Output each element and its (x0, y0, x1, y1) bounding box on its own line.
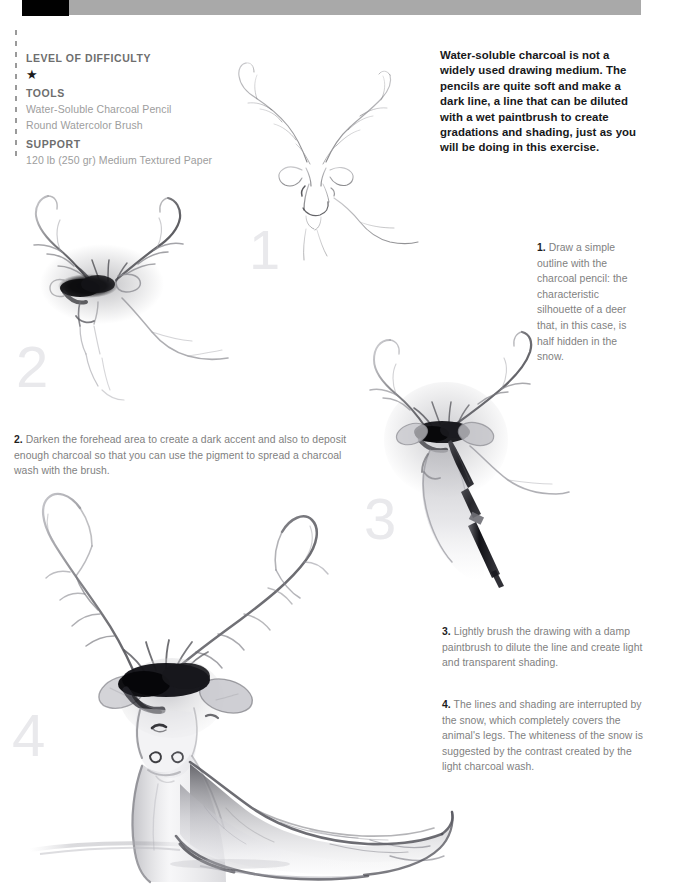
caption-step-2: 2. Darken the forehead area to create a … (14, 432, 359, 479)
dashed-margin-rule (15, 30, 17, 158)
caption-step-3-text: Lightly brush the drawing with a damp pa… (442, 626, 642, 668)
caption-step-3-number: 3. (442, 626, 451, 637)
caption-step-1-text: Draw a simple outline with the charcoal … (537, 242, 628, 362)
caption-step-1-number: 1. (537, 242, 546, 253)
artwork-step-2-darkened-forehead (6, 176, 246, 424)
caption-step-4-number: 4. (442, 699, 451, 710)
header-gray-block (69, 0, 641, 15)
page-root: LEVEL OF DIFFICULTY ★ TOOLS Water-Solubl… (0, 0, 676, 896)
caption-step-3: 3. Lightly brush the drawing with a damp… (442, 624, 647, 671)
page-header-bar (0, 0, 676, 16)
caption-step-2-number: 2. (14, 434, 23, 445)
header-black-block (22, 0, 69, 16)
caption-step-2-text: Darken the forehead area to create a dar… (14, 434, 346, 476)
caption-step-4: 4. The lines and shading are interrupted… (442, 697, 647, 775)
caption-step-1: 1. Draw a simple outline with the charco… (537, 240, 643, 365)
intro-paragraph: Water-soluble charcoal is not a widely u… (440, 48, 645, 156)
caption-step-4-text: The lines and shading are interrupted by… (442, 699, 643, 772)
artwork-step-4-finished-deer-in-snow (30, 484, 460, 884)
